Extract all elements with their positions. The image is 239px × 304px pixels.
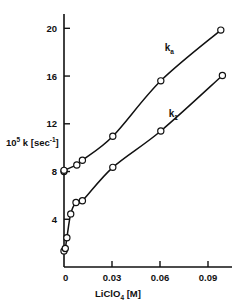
svg-text:105 k [sec-1]: 105 k [sec-1] <box>6 136 59 148</box>
series-label-k_1: k1 <box>169 108 179 121</box>
data-point-k_1 <box>79 198 85 204</box>
y-tick-label: 8 <box>52 166 57 177</box>
data-point-k_1 <box>62 245 68 251</box>
x-axis-label: LiClO4 [M] <box>95 288 141 301</box>
svg-text:LiClO4 [M]: LiClO4 [M] <box>95 288 141 301</box>
x-axis-ticks: 00.030.060.09 <box>63 261 217 283</box>
y-tick-label: 4 <box>52 214 58 225</box>
x-label-tail: [M] <box>124 288 141 299</box>
kinetics-line-chart: 48121620 00.030.060.09 105 k [sec-1] LiC… <box>0 0 239 304</box>
y-tick-label: 20 <box>46 23 57 34</box>
data-point-k_a <box>110 133 116 139</box>
x-tick-label: 0.06 <box>151 272 170 283</box>
data-point-k_1 <box>73 199 79 205</box>
x-label-base: LiClO <box>95 288 120 299</box>
data-point-k_a <box>79 157 85 163</box>
data-curves <box>63 30 222 251</box>
data-point-k_1 <box>219 72 225 78</box>
data-point-k_1 <box>64 235 70 241</box>
x-tick-label: 0 <box>63 272 68 283</box>
series-label-k_a: ka <box>165 42 175 55</box>
y-axis-ticks: 48121620 <box>46 23 70 225</box>
y-label-tail: ] <box>56 137 59 148</box>
y-axis-label: 105 k [sec-1] <box>6 136 59 148</box>
data-point-k_a <box>61 167 67 173</box>
series-line-k_1 <box>64 75 222 250</box>
data-point-k_1 <box>158 128 164 134</box>
series-line-k_a <box>63 30 221 171</box>
data-point-k_1 <box>110 164 116 170</box>
y-label-base: 10 <box>6 137 17 148</box>
x-tick-label: 0.03 <box>103 272 122 283</box>
data-points <box>61 27 226 254</box>
data-point-k_a <box>218 27 224 33</box>
series-annotations: kak1 <box>165 42 179 121</box>
chart-figure: 48121620 00.030.060.09 105 k [sec-1] LiC… <box>0 0 239 304</box>
x-tick-label: 0.09 <box>199 272 218 283</box>
data-point-k_a <box>74 162 80 168</box>
data-point-k_1 <box>68 211 74 217</box>
data-point-k_a <box>158 78 164 84</box>
y-tick-label: 12 <box>46 118 57 129</box>
y-tick-label: 16 <box>46 71 57 82</box>
y-label-mid: k [sec <box>20 137 50 148</box>
